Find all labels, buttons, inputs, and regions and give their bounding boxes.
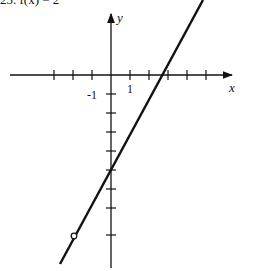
open-point xyxy=(71,233,77,239)
graph: 23. f(x) = 2 x y 1 -1 xyxy=(0,0,254,271)
x-tick-label: 1 xyxy=(127,82,133,96)
y-tick-label: -1 xyxy=(87,88,97,102)
y-axis-label: y xyxy=(115,10,123,25)
x-axis-label: x xyxy=(228,80,235,95)
caption: 23. f(x) = 2 xyxy=(0,0,59,7)
function-line xyxy=(60,0,203,264)
